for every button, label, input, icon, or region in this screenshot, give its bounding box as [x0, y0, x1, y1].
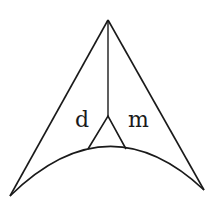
left-side-line [10, 20, 108, 196]
diagram-canvas: d m [0, 0, 209, 205]
base-arc [10, 146, 204, 196]
label-d: d [75, 107, 89, 132]
inner-triangle [88, 116, 126, 149]
label-m: m [128, 107, 149, 132]
right-side-line [108, 20, 204, 190]
